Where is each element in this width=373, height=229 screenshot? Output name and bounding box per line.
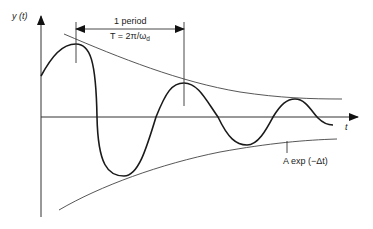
y-axis-label: y (t) [11, 11, 28, 21]
period-label: 1 period [114, 16, 147, 26]
envelope-label: A exp (−Δt) [283, 156, 328, 166]
period-formula-subscript: d [146, 35, 150, 42]
period-formula: T = 2π/ωd [110, 31, 150, 42]
x-axis-label: t [345, 122, 348, 132]
damped-oscillation-diagram: y (t) t 1 period T = 2π/ωd A exp (−Δt) [0, 0, 373, 229]
upper-envelope-curve [64, 34, 342, 99]
period-formula-main: T = 2π/ω [110, 31, 146, 41]
